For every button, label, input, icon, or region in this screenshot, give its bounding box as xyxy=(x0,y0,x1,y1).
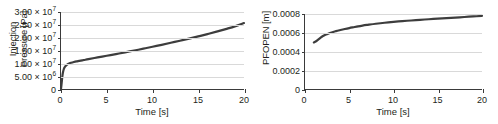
y-axis-tick xyxy=(302,71,305,72)
plot-area-injection-pressure xyxy=(60,12,244,90)
x-axis-tick xyxy=(394,89,395,93)
x-axis-tick xyxy=(350,89,351,93)
x-axis-tick-label: 15 xyxy=(193,95,203,105)
y-axis-tick-label: 3.00 × 107 xyxy=(15,8,56,17)
y-axis-tick-label: 0 xyxy=(51,86,56,95)
x-axis-tick-label: 0 xyxy=(301,95,306,105)
x-axis-tick-label: 20 xyxy=(239,95,249,105)
x-axis-tick xyxy=(61,89,62,93)
y-axis-tick-label: 0.0002 xyxy=(272,67,300,76)
y-axis-tick xyxy=(302,14,305,15)
y-axis-tick xyxy=(58,38,61,39)
y-axis-tick-label: 0.0008 xyxy=(272,10,300,19)
y-axis-tick xyxy=(302,33,305,34)
chart-panel-pfopen: PFOPEN [m] 00.00020.00040.00060.0008 051… xyxy=(252,0,498,124)
y-axis-tick-label: 0 xyxy=(295,86,300,95)
x-axis-tick-label: 5 xyxy=(346,95,351,105)
x-axis-tick-label: 5 xyxy=(103,95,108,105)
gridline-horizontal xyxy=(61,51,244,52)
x-axis-tick-label: 0 xyxy=(57,95,62,105)
gridline-horizontal xyxy=(305,14,482,15)
y-axis-tick xyxy=(58,25,61,26)
chart-panel-injection-pressure: Injection Pressure [Pa] 05.00 × 1061.00 … xyxy=(0,0,252,124)
y-axis-tick-labels-left: 05.00 × 1061.00 × 1071.50 × 1072.00 × 10… xyxy=(0,0,56,124)
x-axis-title-right: Time [s] xyxy=(376,106,409,117)
gridline-horizontal xyxy=(61,25,244,26)
x-axis-tick-label: 20 xyxy=(477,95,487,105)
x-axis-tick-label: 10 xyxy=(147,95,157,105)
y-axis-tick-label: 2.50 × 107 xyxy=(15,21,56,30)
x-axis-tick xyxy=(305,89,306,93)
x-axis-tick-label: 10 xyxy=(388,95,398,105)
y-axis-tick-label: 0.0006 xyxy=(272,29,300,38)
x-axis-tick xyxy=(199,89,200,93)
y-axis-tick-label: 1.00 × 107 xyxy=(15,60,56,69)
x-axis-tick-label: 15 xyxy=(432,95,442,105)
gridline-horizontal xyxy=(305,33,482,34)
figure-two-panel-plots: Injection Pressure [Pa] 05.00 × 1061.00 … xyxy=(0,0,498,124)
y-axis-tick xyxy=(58,64,61,65)
y-axis-tick xyxy=(58,77,61,78)
y-axis-tick xyxy=(58,51,61,52)
y-axis-tick-label: 2.00 × 107 xyxy=(15,34,56,43)
x-axis-tick xyxy=(107,89,108,93)
gridline-horizontal xyxy=(61,77,244,78)
y-axis-tick-labels-right: 00.00020.00040.00060.0008 xyxy=(252,0,300,124)
y-axis-tick-label: 5.00 × 106 xyxy=(15,73,56,82)
x-axis-tick xyxy=(439,89,440,93)
y-axis-tick-label: 1.50 × 107 xyxy=(15,47,56,56)
plot-area-pfopen xyxy=(304,14,482,90)
y-axis-tick xyxy=(58,12,61,13)
gridline-horizontal xyxy=(61,38,244,39)
gridline-horizontal xyxy=(305,52,482,53)
y-axis-tick xyxy=(302,52,305,53)
x-axis-tick xyxy=(245,89,246,93)
y-axis-tick-label: 0.0004 xyxy=(272,48,300,57)
x-axis-title-left: Time [s] xyxy=(135,106,168,117)
gridline-horizontal xyxy=(61,12,244,13)
gridline-horizontal xyxy=(305,71,482,72)
x-axis-tick xyxy=(153,89,154,93)
x-axis-tick xyxy=(483,89,484,93)
gridline-horizontal xyxy=(61,64,244,65)
